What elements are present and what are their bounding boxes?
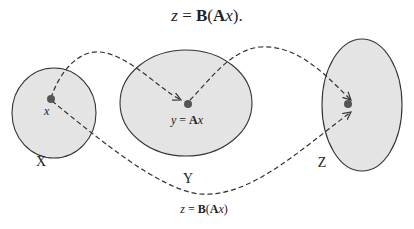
point-x-label: x xyxy=(43,104,50,118)
point-y xyxy=(184,100,192,108)
set-y-label: Y xyxy=(183,171,193,186)
point-y-label: y = Ax xyxy=(170,113,204,127)
set-z-label: Z xyxy=(318,155,327,170)
title-equation: z = B(Ax). xyxy=(170,6,242,25)
set-x-ellipse xyxy=(12,68,96,158)
set-z-ellipse xyxy=(322,39,402,171)
function-composition-diagram: z = B(Ax). x y = Ax X Y Z z = B(Ax) xyxy=(0,0,414,229)
composite-map-label: z = B(Ax) xyxy=(179,202,227,216)
point-x xyxy=(47,95,55,103)
set-x-label: X xyxy=(36,154,46,169)
point-z xyxy=(344,100,352,108)
